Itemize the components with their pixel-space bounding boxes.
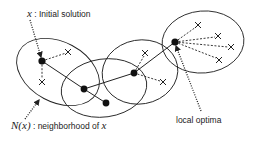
neighbor-marks [39,22,234,85]
solution-dot-2 [81,86,88,93]
neighborhood-pointer [25,100,39,119]
move-line-3 [134,42,175,73]
move-line-1 [42,61,84,89]
solution-dot-3 [131,70,138,77]
initial-separator: : [32,9,39,19]
move-line-side [84,89,106,103]
neighborhood-separator: : [31,121,38,131]
move-line-2 [84,73,134,89]
local-optima-label: local optima [176,115,221,125]
neighborhood-symbol: N(x) [11,119,31,131]
local-optimum-dot [171,38,178,45]
neighborhood-var: x [101,119,106,131]
local-optima-pointer [176,46,201,111]
neighborhood-text: neighborhood of [38,121,102,131]
initial-text: Initial solution [39,9,91,19]
neighborhood-label: N(x) : neighborhood of x [11,119,106,131]
initial-solution-dot [38,57,45,64]
initial-solution-label: x : Initial solution [27,7,91,19]
solution-dot-side [103,100,110,107]
